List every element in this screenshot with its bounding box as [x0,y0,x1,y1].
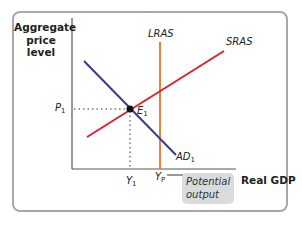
sras-label: SRAS [226,36,252,47]
yp-sub: P [161,176,165,184]
equilibrium-point [127,106,134,113]
x-axis-label: Real GDP [241,174,296,186]
potential-output-callout: Potential output [182,173,234,204]
p1-tick-label: P1 [55,102,66,115]
ad-label: AD1 [176,151,195,164]
equilibrium-label: E1 [137,105,148,118]
ad-label-text: AD [176,151,191,162]
yp-tick-label: YP [155,171,165,184]
y-axis-label: Aggregate price level [14,21,68,59]
y-axis-label-line: price [14,34,68,47]
y1-sub: 1 [132,180,136,188]
p1-sub: 1 [61,107,65,115]
ad-label-sub: 1 [191,156,195,164]
y-axis-label-line: level [14,46,68,59]
potential-output-line: output [186,188,230,201]
y-axis-label-line: Aggregate [14,21,68,34]
potential-output-line: Potential [186,175,230,188]
sras-curve [87,51,224,137]
y1-tick-label: Y1 [126,175,137,188]
equilibrium-label-sub: 1 [143,110,147,118]
lras-label: LRAS [148,28,174,39]
